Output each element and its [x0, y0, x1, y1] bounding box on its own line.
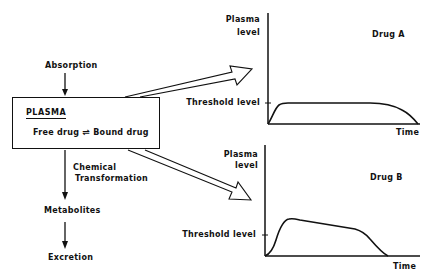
excretion-label: Excretion [48, 253, 93, 262]
plasma-title: PLASMA [26, 108, 66, 119]
chart-b-curve [265, 219, 388, 256]
chart-a-title: Drug A [372, 30, 405, 39]
metabolites-label: Metabolites [44, 206, 101, 215]
chart-b-xlabel: Time [393, 262, 416, 271]
chart-b-title: Drug B [370, 173, 403, 182]
plasma-box: PLASMA Free drug⇌Bound drug [12, 97, 160, 149]
chart-b-ylabel-2: level [218, 161, 258, 170]
chemical-label-line1: Chemical [73, 163, 116, 172]
hollow-arrow-to-drug-a [125, 66, 252, 97]
bound-drug-label: Bound drug [93, 128, 149, 137]
plasma-equilibrium: Free drug⇌Bound drug [33, 127, 149, 137]
chart-a-threshold-label: Threshold level [180, 98, 260, 107]
chart-b-ylabel-1: Plasma [218, 150, 258, 159]
chart-a-xlabel: Time [396, 128, 419, 137]
absorption-label: Absorption [45, 61, 98, 70]
chart-a-ylabel-1: Plasma [220, 15, 260, 24]
absorption-arrow [62, 73, 68, 96]
free-drug-label: Free drug [33, 128, 79, 137]
chart-b-axes [262, 145, 420, 256]
chart-a-curve [268, 103, 418, 124]
equilibrium-arrows-icon: ⇌ [82, 127, 90, 137]
chemical-label-line2: Transformation [75, 174, 148, 183]
chart-a-ylabel-2: level [220, 28, 260, 37]
transformation-arrow [62, 150, 68, 200]
excretion-arrow [62, 222, 68, 249]
chart-b-threshold-label: Threshold level [176, 230, 256, 239]
